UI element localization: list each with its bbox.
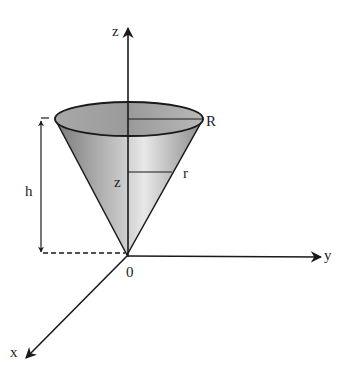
y-axis: [127, 256, 321, 257]
origin-label: 0: [126, 264, 134, 280]
cone-diagram: z y x 0 h R r z: [0, 0, 344, 378]
x-axis-label: x: [10, 344, 18, 360]
z-axis-label: z: [112, 23, 119, 39]
slice-height-label: z: [114, 174, 121, 190]
x-axis: [26, 256, 127, 358]
top-radius-label: R: [206, 113, 216, 129]
height-label: h: [25, 183, 33, 199]
y-axis-label: y: [324, 247, 332, 263]
slice-radius-label: r: [183, 165, 188, 181]
